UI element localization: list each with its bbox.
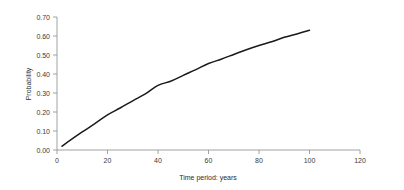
x-tick-label: 20 xyxy=(104,157,112,164)
y-tick-label: 0.20 xyxy=(36,109,50,116)
y-tick-label: 0.50 xyxy=(36,52,50,59)
y-tick-label: 0.10 xyxy=(36,128,50,135)
x-tick-label: 40 xyxy=(154,157,162,164)
y-tick-label: 0.00 xyxy=(36,147,50,154)
x-tick-label: 100 xyxy=(304,157,316,164)
x-axis-title: Time period: years xyxy=(179,174,237,182)
y-tick-label: 0.70 xyxy=(36,14,50,21)
y-tick-label: 0.60 xyxy=(36,33,50,40)
x-axis-tick-labels: 0 20 40 60 80 100 120 xyxy=(55,157,366,164)
x-axis-ticks xyxy=(57,150,360,154)
x-tick-label: 120 xyxy=(354,157,366,164)
y-tick-label: 0.30 xyxy=(36,90,50,97)
data-curve-probability xyxy=(62,30,309,146)
y-axis-title: Probability xyxy=(25,67,33,100)
x-tick-label: 60 xyxy=(205,157,213,164)
x-tick-label: 0 xyxy=(55,157,59,164)
x-tick-label: 80 xyxy=(255,157,263,164)
chart-svg: 0.00 0.10 0.20 0.30 0.40 0.50 0.60 0.70 … xyxy=(0,0,404,190)
chart-container: 0.00 0.10 0.20 0.30 0.40 0.50 0.60 0.70 … xyxy=(0,0,404,190)
y-tick-label: 0.40 xyxy=(36,71,50,78)
y-axis-ticks xyxy=(53,17,57,150)
y-axis-tick-labels: 0.00 0.10 0.20 0.30 0.40 0.50 0.60 0.70 xyxy=(36,14,50,154)
